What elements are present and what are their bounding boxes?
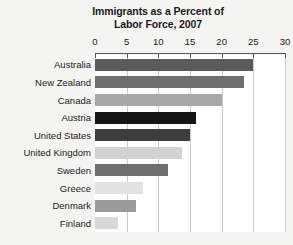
category-label: Finland xyxy=(0,218,91,230)
category-label: Sweden xyxy=(0,165,91,177)
bar xyxy=(95,164,168,176)
x-tick-mark-6 xyxy=(285,53,286,58)
bar xyxy=(95,59,253,71)
bar xyxy=(95,129,190,141)
x-tick-mark-0 xyxy=(95,53,96,58)
x-tick-label-0: 0 xyxy=(92,36,97,47)
x-tick-label-1: 5 xyxy=(124,36,129,47)
category-label: Australia xyxy=(0,59,91,71)
category-label: United Kingdom xyxy=(0,147,91,159)
x-tick-label-6: 30 xyxy=(280,36,291,47)
category-label: Canada xyxy=(0,95,91,107)
category-label: Austria xyxy=(0,112,91,124)
x-tick-label-4: 20 xyxy=(216,36,227,47)
x-tick-label-5: 25 xyxy=(248,36,259,47)
bars-layer xyxy=(95,55,285,232)
category-label: Greece xyxy=(0,183,91,195)
bar xyxy=(95,182,143,194)
chart-title-line-2: Labor Force, 2007 xyxy=(58,18,258,31)
x-tick-mark-4 xyxy=(222,53,223,58)
x-tick-mark-3 xyxy=(190,53,191,58)
category-label: Denmark xyxy=(0,200,91,212)
x-axis-tick-labels: 051015202530 xyxy=(0,36,293,50)
x-tick-label-2: 10 xyxy=(153,36,164,47)
chart-title-line-1: Immigrants as a Percent of xyxy=(58,5,258,18)
bar xyxy=(95,200,136,212)
bar xyxy=(95,112,196,124)
chart-title: Immigrants as a Percent of Labor Force, … xyxy=(58,5,258,30)
category-labels: AustraliaNew ZealandCanadaAustriaUnited … xyxy=(0,55,91,232)
x-tick-label-3: 15 xyxy=(185,36,196,47)
bar xyxy=(95,76,244,88)
bar xyxy=(95,217,118,229)
plot-wrapper: 051015202530 AustraliaNew ZealandCanadaA… xyxy=(0,36,293,236)
category-label: New Zealand xyxy=(0,77,91,89)
bar xyxy=(95,147,182,159)
x-tick-mark-5 xyxy=(253,53,254,58)
bar-chart: Immigrants as a Percent of Labor Force, … xyxy=(0,0,293,245)
x-tick-mark-2 xyxy=(158,53,159,58)
x-tick-mark-1 xyxy=(127,53,128,58)
bar xyxy=(95,94,222,106)
category-label: United States xyxy=(0,130,91,142)
gridline-6 xyxy=(285,55,286,232)
